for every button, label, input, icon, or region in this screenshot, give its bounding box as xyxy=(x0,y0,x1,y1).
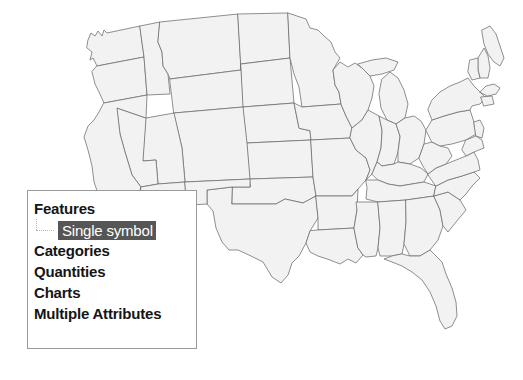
state-alabama[interactable] xyxy=(378,200,406,256)
tree-item-charts-label: Charts xyxy=(28,282,80,303)
tree-item-categories-label: Categories xyxy=(28,240,110,261)
tree-item-quantities[interactable]: Quantities xyxy=(28,261,196,282)
state-massachusetts[interactable] xyxy=(480,84,500,96)
tree-item-single-symbol-label: Single symbol xyxy=(58,221,156,240)
tree-item-categories[interactable]: Categories xyxy=(28,240,196,261)
state-minnesota[interactable] xyxy=(288,13,341,107)
tree-item-quantities-label: Quantities xyxy=(28,261,105,282)
symbology-renderer-panel[interactable]: Features Single symbol Categories Quanti… xyxy=(27,190,197,349)
state-south-dakota[interactable] xyxy=(241,58,294,107)
tree-item-charts[interactable]: Charts xyxy=(28,282,196,303)
tree-item-multiple-attributes[interactable]: Multiple Attributes xyxy=(28,303,196,324)
tree-item-features[interactable]: Features xyxy=(28,198,196,219)
state-kansas[interactable] xyxy=(247,140,313,179)
renderer-tree[interactable]: Features Single symbol Categories Quanti… xyxy=(28,198,196,324)
state-michigan-lower[interactable] xyxy=(379,72,408,124)
tree-elbow-connector-icon xyxy=(36,219,58,240)
state-louisiana[interactable] xyxy=(306,228,363,264)
state-colorado[interactable] xyxy=(174,107,250,182)
state-florida[interactable] xyxy=(384,250,457,329)
state-vermont[interactable] xyxy=(468,58,480,80)
state-connecticut[interactable] xyxy=(481,96,494,106)
state-montana[interactable] xyxy=(158,14,241,79)
screenshot-root: Features Single symbol Categories Quanti… xyxy=(0,0,523,380)
state-georgia[interactable] xyxy=(404,196,443,256)
tree-item-single-symbol[interactable]: Single symbol xyxy=(28,219,196,240)
state-new-jersey[interactable] xyxy=(474,120,484,138)
tree-item-features-label: Features xyxy=(28,198,95,219)
tree-item-multiple-attributes-label: Multiple Attributes xyxy=(28,303,161,324)
